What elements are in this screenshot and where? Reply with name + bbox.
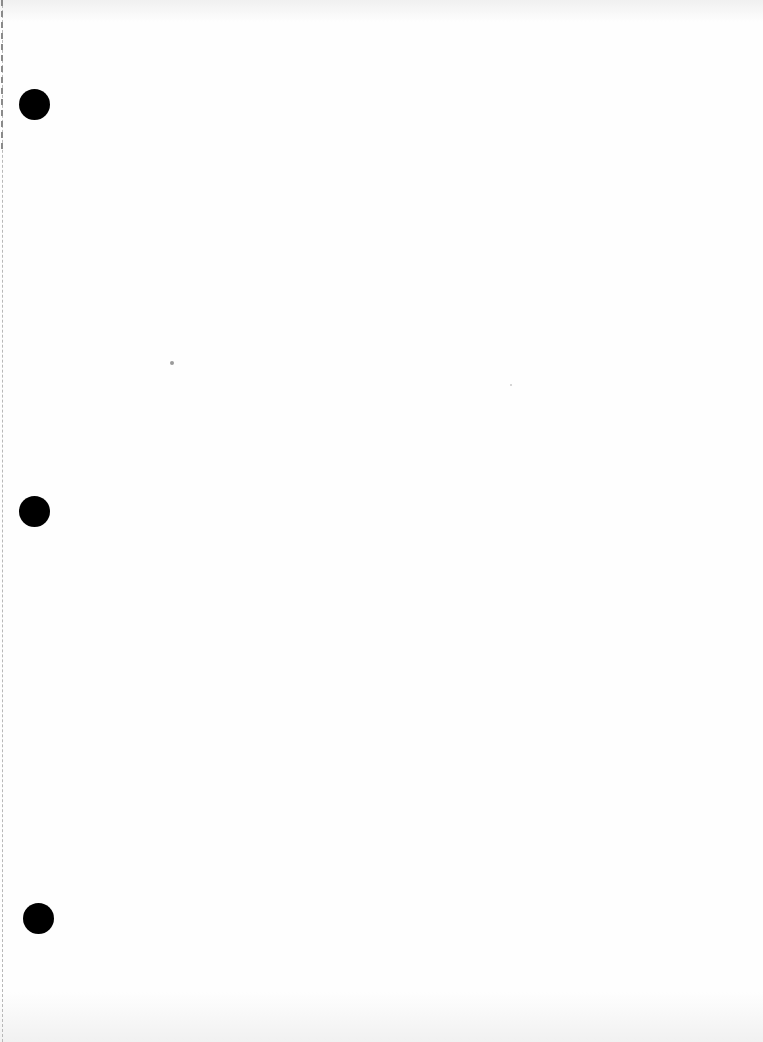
left-margin-scan-artifact	[1, 0, 3, 150]
punch-hole-top	[19, 89, 50, 120]
left-margin-line	[2, 0, 3, 1042]
scan-edge-top	[0, 0, 763, 22]
blank-page	[0, 0, 763, 1042]
scan-edge-bottom	[0, 992, 763, 1042]
scan-speck	[170, 361, 174, 365]
punch-hole-middle	[19, 496, 50, 527]
scan-speck	[510, 384, 512, 386]
punch-hole-bottom	[23, 903, 54, 934]
